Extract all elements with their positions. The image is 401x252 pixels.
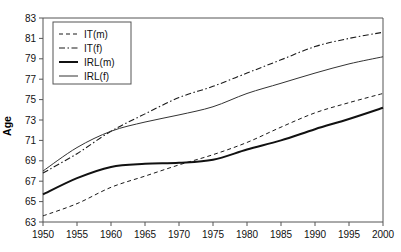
- y-tick-label: 77: [25, 74, 37, 85]
- y-tick-label: 65: [25, 196, 37, 207]
- x-axis-ticks: 1950195519601965197019751980198519901995…: [32, 222, 395, 240]
- x-tick-label: 1995: [338, 229, 361, 240]
- x-tick-label: 1975: [202, 229, 225, 240]
- legend-label-irlf: IRL(f): [84, 71, 109, 82]
- chart-legend[interactable]: IT(m)IT(f)IRL(m)IRL(f): [53, 22, 131, 84]
- y-tick-label: 69: [25, 155, 37, 166]
- y-tick-label: 73: [25, 115, 37, 126]
- y-tick-label: 67: [25, 176, 37, 187]
- x-tick-label: 1955: [66, 229, 89, 240]
- x-tick-label: 1950: [32, 229, 55, 240]
- x-tick-label: 1960: [100, 229, 123, 240]
- y-tick-label: 83: [25, 13, 37, 24]
- y-tick-label: 75: [25, 94, 37, 105]
- legend-label-itf: IT(f): [84, 43, 102, 54]
- x-tick-label: 1990: [304, 229, 327, 240]
- y-tick-label: 63: [25, 217, 37, 228]
- chart-figure: 6365676971737577798183 19501955196019651…: [0, 0, 401, 252]
- y-tick-label: 79: [25, 53, 37, 64]
- y-tick-label: 71: [25, 135, 37, 146]
- x-tick-label: 1970: [168, 229, 191, 240]
- line-chart: 6365676971737577798183 19501955196019651…: [0, 0, 401, 252]
- y-axis-title: Age: [1, 116, 13, 136]
- x-tick-label: 1980: [236, 229, 259, 240]
- x-tick-label: 2000: [372, 229, 395, 240]
- y-axis-ticks: 6365676971737577798183: [25, 13, 43, 228]
- x-tick-label: 1965: [134, 229, 157, 240]
- y-tick-label: 81: [25, 33, 37, 44]
- legend-label-irlm: IRL(m): [84, 57, 115, 68]
- legend-label-itm: IT(m): [84, 29, 108, 40]
- x-tick-label: 1985: [270, 229, 293, 240]
